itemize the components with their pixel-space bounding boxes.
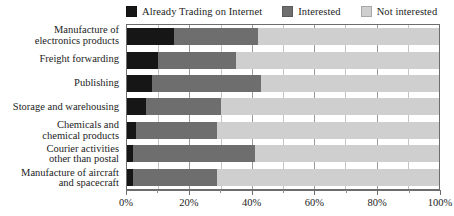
legend-swatch-icon bbox=[361, 6, 372, 17]
bar-segment bbox=[127, 28, 174, 45]
x-tick-major bbox=[314, 190, 315, 195]
bar-row bbox=[127, 169, 439, 186]
bar-segment bbox=[136, 122, 217, 139]
x-tick-label: 80% bbox=[368, 197, 387, 209]
legend-item: Interested bbox=[282, 6, 340, 17]
bar-segment bbox=[221, 98, 439, 115]
bar-segment bbox=[258, 28, 439, 45]
bar-segment bbox=[127, 98, 146, 115]
bar-row bbox=[127, 52, 439, 69]
x-tick-label: 60% bbox=[305, 197, 324, 209]
bar-segment bbox=[127, 52, 158, 69]
category-label: Chemicals and chemical products bbox=[0, 122, 122, 139]
bar-row bbox=[127, 98, 439, 115]
bar-segment bbox=[158, 52, 236, 69]
x-tick-major bbox=[126, 190, 127, 195]
bar-segment bbox=[127, 75, 152, 92]
bar-segment bbox=[217, 169, 439, 186]
x-tick-major bbox=[440, 190, 441, 195]
bar-segment bbox=[261, 75, 439, 92]
legend-label: Interested bbox=[298, 6, 340, 17]
category-label: Manufacture of electronics products bbox=[0, 27, 122, 44]
category-label: Storage and warehousing bbox=[0, 98, 122, 115]
bar-row bbox=[127, 28, 439, 45]
bar-segment bbox=[255, 145, 439, 162]
legend-label: Not interested bbox=[377, 6, 438, 17]
x-tick-major bbox=[252, 190, 253, 195]
category-label: Courier activities other than postal bbox=[0, 146, 122, 163]
x-tick-minor bbox=[346, 190, 347, 193]
bar-segment bbox=[133, 169, 217, 186]
bar-segment bbox=[152, 75, 261, 92]
x-tick-label: 40% bbox=[242, 197, 261, 209]
bar-segment bbox=[217, 122, 439, 139]
category-label: Manufacture of aircraft and spacecraft bbox=[0, 170, 122, 187]
bar-rows bbox=[127, 25, 439, 189]
x-tick-minor bbox=[220, 190, 221, 193]
stacked-bar-chart: Already Trading on InternetInterestedNot… bbox=[0, 0, 454, 216]
bar-segment bbox=[133, 145, 255, 162]
legend-item: Not interested bbox=[361, 6, 438, 17]
category-label: Publishing bbox=[0, 75, 122, 92]
legend-swatch-icon bbox=[282, 6, 293, 17]
legend-item: Already Trading on Internet bbox=[126, 6, 262, 17]
chart-legend: Already Trading on InternetInterestedNot… bbox=[126, 3, 440, 19]
legend-swatch-icon bbox=[126, 6, 137, 17]
bar-row bbox=[127, 75, 439, 92]
x-tick-label: 0% bbox=[119, 197, 133, 209]
bar-row bbox=[127, 122, 439, 139]
x-tick-major bbox=[377, 190, 378, 195]
bar-segment bbox=[174, 28, 258, 45]
x-axis-tick-labels: 0%20%40%60%80%100% bbox=[126, 197, 440, 213]
category-axis-labels: Manufacture of electronics productsFreig… bbox=[0, 24, 122, 190]
x-tick-label: 100% bbox=[428, 197, 453, 209]
category-label: Freight forwarding bbox=[0, 51, 122, 68]
bar-segment bbox=[236, 52, 439, 69]
bar-row bbox=[127, 145, 439, 162]
bar-segment bbox=[146, 98, 221, 115]
plot-area bbox=[126, 24, 440, 190]
x-tick-minor bbox=[409, 190, 410, 193]
legend-label: Already Trading on Internet bbox=[142, 6, 262, 17]
x-tick-minor bbox=[283, 190, 284, 193]
x-tick-major bbox=[189, 190, 190, 195]
x-tick-minor bbox=[157, 190, 158, 193]
bar-segment bbox=[127, 122, 136, 139]
x-tick-label: 20% bbox=[179, 197, 198, 209]
